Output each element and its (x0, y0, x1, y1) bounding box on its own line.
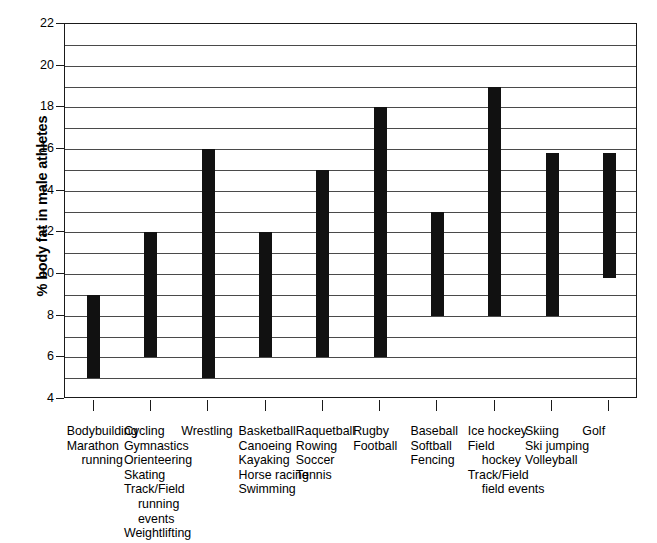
gridline-18 (65, 107, 636, 108)
y-tick-mark-6 (56, 356, 64, 357)
bar-7 (431, 212, 444, 316)
y-tick-label-12: 12 (24, 225, 54, 237)
bar-6 (374, 107, 387, 357)
x-tick-mark-4 (265, 400, 266, 411)
x-tick-mark-10 (608, 400, 609, 411)
x-category-line: Softball (410, 439, 458, 454)
y-axis-tick-labels: 46810121416182022 (20, 23, 54, 398)
x-category-line: Baseball (410, 424, 458, 439)
x-category-line: events (124, 512, 192, 527)
x-category-line: Rugby (353, 424, 397, 439)
y-tick-label-10: 10 (24, 267, 54, 279)
gridline-20 (65, 66, 636, 67)
y-tick-mark-8 (56, 315, 64, 316)
bar-3 (202, 149, 215, 378)
x-category-line: Tennis (296, 468, 355, 483)
x-tick-mark-8 (494, 400, 495, 411)
bar-5 (316, 170, 329, 358)
y-tick-mark-14 (56, 190, 64, 191)
gridline-5 (65, 378, 636, 379)
x-category-line: Skiing (525, 424, 589, 439)
y-tick-mark-10 (56, 273, 64, 274)
x-category-line: Gymnastics (124, 439, 192, 454)
x-tick-mark-1 (93, 400, 94, 411)
y-tick-label-22: 22 (24, 17, 54, 29)
x-category-label-5: RaquetballRowingSoccerTennis (296, 424, 355, 482)
y-tick-mark-22 (56, 23, 64, 24)
gridline-6 (65, 357, 636, 358)
x-category-line: Fencing (410, 453, 458, 468)
y-tick-label-20: 20 (24, 59, 54, 71)
x-tick-mark-3 (207, 400, 208, 411)
x-category-line: Wrestling (181, 424, 232, 439)
y-tick-label-4: 4 (24, 392, 54, 404)
x-category-line: Football (353, 439, 397, 454)
bar-10 (603, 153, 616, 278)
y-tick-label-8: 8 (24, 309, 54, 321)
x-tick-mark-2 (150, 400, 151, 411)
x-category-line: Swimming (239, 482, 309, 497)
x-category-label-9: SkiingSki jumpingVolleyball (525, 424, 589, 468)
x-tick-mark-6 (379, 400, 380, 411)
y-tick-mark-4 (56, 398, 64, 399)
x-category-label-2: CyclingGymnasticsOrienteeringSkatingTrac… (124, 424, 192, 541)
y-tick-mark-20 (56, 65, 64, 66)
y-tick-label-14: 14 (24, 184, 54, 196)
x-category-line: Ski jumping (525, 439, 589, 454)
x-tick-mark-5 (322, 400, 323, 411)
x-axis-category-labels: BodybuildingMarathonrunningCyclingGymnas… (0, 424, 657, 543)
gridline-21 (65, 45, 636, 46)
x-category-line: Raquetball (296, 424, 355, 439)
x-category-line: running (124, 497, 192, 512)
x-category-line: field events (468, 482, 545, 497)
x-category-line: Track/Field (468, 468, 545, 483)
y-tick-label-18: 18 (24, 100, 54, 112)
x-category-line: Rowing (296, 439, 355, 454)
y-tick-label-6: 6 (24, 350, 54, 362)
x-category-line: Skating (124, 468, 192, 483)
x-category-line: Track/Field (124, 482, 192, 497)
y-tick-mark-12 (56, 231, 64, 232)
x-category-label-3: Wrestling (181, 424, 232, 439)
bar-2 (144, 232, 157, 357)
bar-8 (488, 87, 501, 316)
x-category-line: Orienteering (124, 453, 192, 468)
gridline-17 (65, 128, 636, 129)
x-category-line: Golf (582, 424, 605, 439)
x-tick-mark-7 (436, 400, 437, 411)
x-category-line: Weightlifting (124, 526, 192, 541)
x-category-label-10: Golf (582, 424, 605, 439)
gridline-19 (65, 87, 636, 88)
x-category-line: Volleyball (525, 453, 589, 468)
gridline-16 (65, 149, 636, 150)
x-category-label-6: RugbyFootball (353, 424, 397, 453)
x-category-label-7: BaseballSoftballFencing (410, 424, 458, 468)
bar-4 (259, 232, 272, 357)
y-tick-mark-18 (56, 106, 64, 107)
y-tick-label-16: 16 (24, 142, 54, 154)
plot-area (64, 23, 637, 398)
x-tick-mark-9 (551, 400, 552, 411)
body-fat-bar-chart: % body fat in male athletes 468101214161… (0, 0, 657, 543)
y-tick-mark-16 (56, 148, 64, 149)
bar-9 (546, 153, 559, 316)
x-category-line: Soccer (296, 453, 355, 468)
bar-1 (87, 295, 100, 378)
